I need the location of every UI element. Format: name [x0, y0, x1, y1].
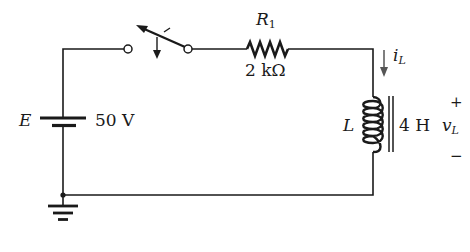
- switch-icon: [124, 25, 192, 59]
- switch-tick: [164, 28, 170, 32]
- inductor-icon: [363, 97, 383, 152]
- wire-top-right: [288, 49, 373, 97]
- source-value-label: 50 V: [95, 112, 134, 129]
- current-subscript: L: [398, 54, 405, 67]
- resistor-symbol: R: [256, 9, 269, 29]
- current-label: iL: [393, 47, 406, 66]
- voltage-label: vL: [442, 117, 459, 136]
- voltage-subscript: L: [452, 124, 459, 137]
- switch-action-arrowhead: [153, 50, 161, 59]
- battery-icon: [40, 118, 86, 126]
- inductor-core-icon: [389, 96, 393, 152]
- ground-node: [60, 192, 65, 197]
- resistor-subscript: 1: [269, 18, 276, 31]
- switch-blade-arrowhead: [136, 25, 148, 33]
- ground-icon: [48, 192, 78, 219]
- voltage-minus-label: −: [450, 149, 463, 164]
- inductor-symbol-label: L: [343, 117, 354, 134]
- resistor-value-label: 2 kΩ: [245, 62, 286, 79]
- wire-bottom: [63, 152, 373, 195]
- inductor-value-label: 4 H: [399, 117, 430, 134]
- switch-terminal-left: [124, 45, 132, 53]
- voltage-symbol: v: [442, 115, 452, 135]
- wire-left-top: [63, 49, 124, 118]
- current-arrow-icon: [380, 50, 388, 77]
- resistor-symbol-label: R1: [256, 11, 276, 30]
- resistor-icon: [247, 42, 288, 56]
- source-symbol-label: E: [19, 112, 31, 129]
- voltage-plus-label: +: [450, 95, 463, 110]
- switch-blade: [142, 28, 185, 47]
